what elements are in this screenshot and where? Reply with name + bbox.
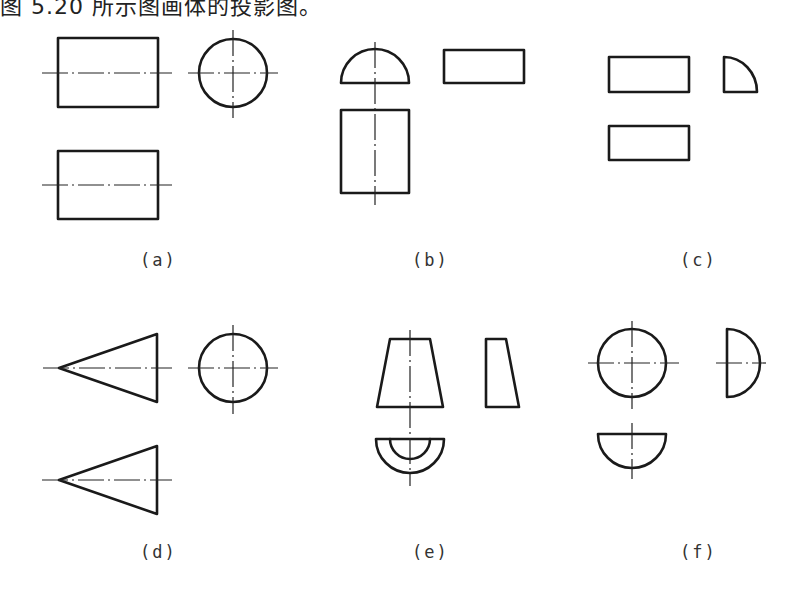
panel-e — [376, 330, 519, 486]
label-a: (a) — [140, 250, 177, 270]
panel-d — [42, 325, 278, 514]
panel-f — [588, 321, 766, 479]
label-b: (b) — [412, 250, 449, 270]
c-front-rectangle — [609, 57, 689, 92]
label-c: (c) — [680, 250, 717, 270]
label-e: (e) — [412, 542, 449, 562]
panel-b — [341, 42, 524, 205]
c-quarter-circle — [724, 57, 757, 92]
panel-c — [609, 57, 757, 160]
panel-a — [42, 30, 278, 219]
label-f: (f) — [680, 542, 717, 562]
b-side-rectangle — [444, 50, 524, 83]
c-top-rectangle — [609, 126, 689, 160]
label-d: (d) — [140, 542, 177, 562]
projection-drawing — [0, 0, 798, 589]
e-side-trapezoid — [486, 339, 519, 407]
